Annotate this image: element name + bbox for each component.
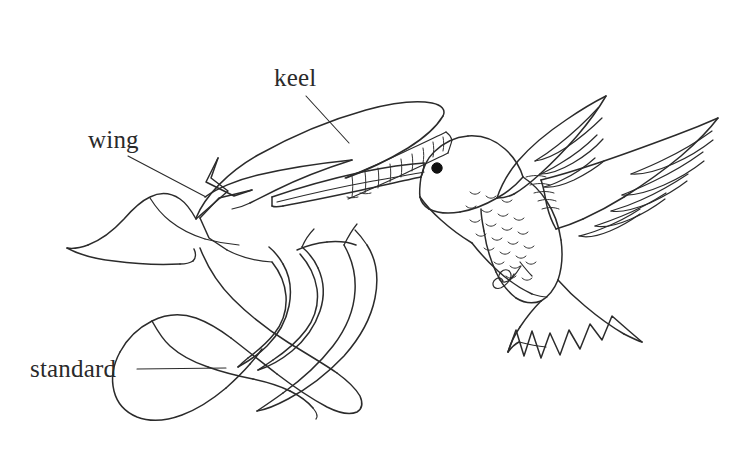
paper-background [0,0,750,473]
botanical-bird-figure: keel wing standard [0,0,750,473]
bird-eye [432,163,442,173]
label-wing: wing [88,126,139,153]
label-keel: keel [274,64,316,91]
line-drawing-canvas: keel wing standard [0,0,750,473]
label-standard: standard [30,355,117,382]
